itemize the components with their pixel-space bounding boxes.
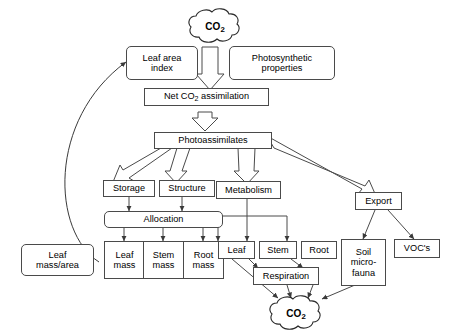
respiration-label: Respiration: [263, 271, 309, 281]
leaf-area-index-label: Leaf area index: [143, 53, 182, 74]
metabolism-label: Metabolism: [225, 185, 272, 195]
node-soil-microfauna[interactable]: Soil micro- fauna: [341, 239, 386, 286]
node-net-co2-assimilation[interactable]: Net CO2 assimilation: [144, 88, 269, 106]
node-photosynthetic-properties[interactable]: Photosynthetic properties: [229, 46, 335, 80]
leaf-label: Leaf: [228, 245, 246, 255]
node-photoassimilates[interactable]: Photoassimilates: [154, 132, 272, 149]
block-arrow-photoassimilates-to-export: [267, 136, 376, 196]
vocs-label: VOC's: [404, 243, 430, 253]
export-label: Export: [365, 196, 392, 206]
photoassimilates-label: Photoassimilates: [178, 135, 247, 145]
node-root[interactable]: Root: [301, 241, 337, 259]
root-mass-label: Root mass: [193, 250, 215, 271]
block-arrow-assimilation-to-photoassimilates: [192, 112, 218, 131]
arrow-export-to-soil-microfauna: [363, 210, 375, 239]
block-arrow-photoassimilates-to-storage: [113, 148, 172, 182]
allocation-label: Allocation: [144, 214, 184, 224]
storage-label: Storage: [113, 183, 145, 193]
soil-microfauna-label: Soil micro- fauna: [351, 247, 377, 278]
block-arrow-photoassimilates-to-structure: [165, 148, 190, 183]
arrow-respiration-right-to-co2: [308, 285, 313, 298]
arrow-export-to-vocs: [388, 210, 414, 239]
co2-source-label: CO2: [205, 21, 225, 34]
curved-feedback-arrow-leafmass-to-lai: [65, 62, 126, 262]
stem-mass-label: Stem mass: [153, 250, 175, 271]
node-leaf-mass-area[interactable]: Leaf mass/area: [21, 244, 94, 276]
co2-sink-cloud: CO2: [267, 299, 325, 331]
photosynthetic-properties-label: Photosynthetic properties: [252, 53, 312, 74]
block-arrow-photoassimilates-to-metabolism: [234, 148, 259, 184]
co2-source-cloud: CO2: [186, 12, 244, 44]
node-structure[interactable]: Structure: [159, 180, 215, 197]
node-vocs[interactable]: VOC's: [394, 239, 440, 258]
node-stem[interactable]: Stem: [259, 241, 297, 259]
leaf-mass-label: Leaf mass: [114, 250, 136, 271]
co2-sink-label: CO2: [286, 308, 306, 321]
node-leaf-area-index[interactable]: Leaf area index: [126, 46, 198, 80]
net-co2-assimilation-label: Net CO2 assimilation: [164, 91, 249, 103]
diagram-canvas: CO2 CO2 Leaf area index Photosynthetic p…: [0, 0, 457, 335]
arrow-soil-microfauna-to-co2: [322, 285, 355, 299]
node-leaf-mass[interactable]: Leaf mass: [104, 241, 145, 279]
block-arrow-co2-to-assimilation: [196, 47, 224, 90]
node-stem-mass[interactable]: Stem mass: [143, 241, 184, 279]
arrow-respiration-left-to-co2: [287, 285, 291, 298]
node-allocation[interactable]: Allocation: [104, 211, 223, 228]
node-storage[interactable]: Storage: [103, 180, 155, 197]
node-respiration[interactable]: Respiration: [253, 267, 319, 285]
node-metabolism[interactable]: Metabolism: [216, 181, 281, 199]
node-export[interactable]: Export: [355, 192, 402, 210]
leaf-mass-area-label: Leaf mass/area: [36, 250, 79, 271]
stem-label: Stem: [267, 245, 288, 255]
structure-label: Structure: [168, 183, 205, 193]
node-leaf[interactable]: Leaf: [218, 241, 255, 259]
root-label: Root: [309, 245, 328, 255]
